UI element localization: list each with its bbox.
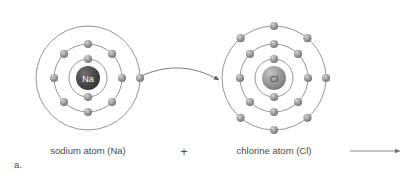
chlorine-nucleus-label: Cl	[270, 74, 279, 84]
chlorine-electron-L-4	[246, 98, 254, 106]
sodium-electron-K-2	[84, 93, 92, 101]
chlorine-electron-L-5	[236, 74, 244, 82]
plus-operator: +	[180, 145, 187, 159]
sodium-atom-diagram: Na	[36, 26, 144, 130]
chlorine-electron-M-2	[303, 114, 311, 122]
chlorine-electron-M-7	[303, 34, 311, 42]
chlorine-electron-M-1	[322, 74, 330, 82]
chlorine-electron-L-1	[304, 74, 312, 82]
sodium-nucleus-label: Na	[82, 74, 94, 84]
chlorine-electron-L-3	[270, 108, 278, 116]
chlorine-electron-M-5	[236, 34, 244, 42]
sodium-electron-L-3	[84, 108, 92, 116]
sodium-electron-L-7	[84, 40, 92, 48]
sodium-electron-L-4	[60, 98, 68, 106]
chlorine-electron-M-6	[270, 22, 278, 30]
sodium-electron-K-1	[84, 55, 92, 63]
chlorine-electron-M-4	[236, 114, 244, 122]
chlorine-electron-L-8	[294, 50, 302, 58]
chlorine-electron-L-6	[246, 50, 254, 58]
sodium-electron-L-1	[118, 74, 126, 82]
sodium-electron-L-5	[50, 74, 58, 82]
chlorine-electron-L-7	[270, 40, 278, 48]
chlorine-electron-L-2	[294, 98, 302, 106]
figure-canvas: Na Cl sodium atom (Na) + chlorine atom (…	[0, 0, 410, 177]
sodium-caption: sodium atom (Na)	[50, 145, 126, 156]
electron-transfer-arrow-icon	[141, 68, 219, 80]
sodium-electron-L-8	[108, 50, 116, 58]
panel-label: a.	[14, 159, 22, 170]
sodium-electron-L-6	[60, 50, 68, 58]
chlorine-caption: chlorine atom (Cl)	[237, 145, 312, 156]
chlorine-electron-K-1	[270, 55, 278, 63]
chlorine-atom-diagram: Cl	[222, 22, 330, 134]
ionic-bonding-figure: Na Cl sodium atom (Na) + chlorine atom (…	[0, 0, 410, 177]
sodium-electron-L-2	[108, 98, 116, 106]
chlorine-electron-K-2	[270, 93, 278, 101]
chlorine-electron-M-3	[270, 126, 278, 134]
